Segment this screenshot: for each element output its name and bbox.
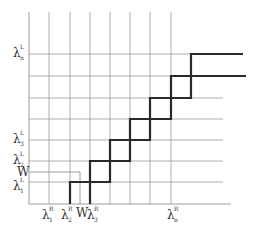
label-sup: L bbox=[20, 151, 24, 157]
step-grid-plot bbox=[0, 0, 256, 234]
label-sup: L bbox=[20, 177, 24, 183]
x-label-lambda-3-R: λ R 3 bbox=[87, 209, 95, 221]
y-label-lambda-3-L: λ L 3 bbox=[13, 133, 21, 145]
diagram-canvas: λ L n λ L 3 λ L 2 W λ L 1 λ R 1 λ R 2 W … bbox=[0, 0, 256, 234]
y-label-lambda-1-L: λ L 1 bbox=[13, 180, 21, 192]
x-label-lambda-1-R: λ R 1 bbox=[42, 209, 50, 221]
label-sup: R bbox=[94, 206, 99, 212]
label-sup: R bbox=[174, 206, 179, 212]
label-sub: 1 bbox=[49, 217, 53, 223]
label-sup: L bbox=[20, 44, 24, 50]
label-sup: R bbox=[49, 206, 54, 212]
label-sub: 2 bbox=[68, 217, 72, 223]
x-label-lambda-n-R: λ R n bbox=[167, 209, 175, 221]
label-sub: 1 bbox=[20, 188, 24, 194]
label-sub: 3 bbox=[94, 217, 98, 223]
label-sup: L bbox=[20, 130, 24, 136]
label-sub: n bbox=[20, 55, 24, 61]
label-sub: n bbox=[174, 217, 178, 223]
label-sub: 3 bbox=[20, 141, 24, 147]
label-sup: R bbox=[68, 206, 73, 212]
x-label-lambda-2-R: λ R 2 bbox=[61, 209, 69, 221]
y-label-lambda-n-L: λ L n bbox=[13, 47, 21, 59]
